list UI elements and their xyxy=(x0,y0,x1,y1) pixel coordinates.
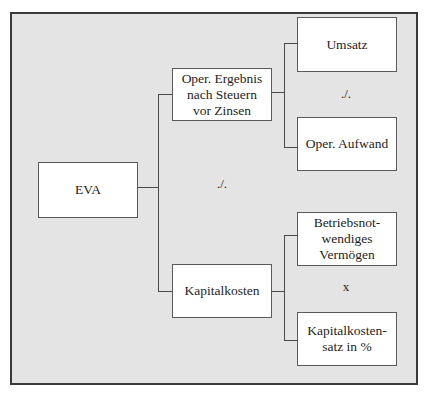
connector-to-satz xyxy=(284,340,297,341)
node-oper-aufwand: Oper. Aufwand xyxy=(297,117,397,171)
node-kapitalkostensatz-label: Kapitalkosten- satz in % xyxy=(307,323,386,355)
node-umsatz-label: Umsatz xyxy=(326,37,367,53)
node-oper-aufwand-label: Oper. Aufwand xyxy=(306,136,388,152)
connector-to-kapitalkosten xyxy=(158,291,172,292)
connector-to-ergebnis xyxy=(158,94,172,95)
node-umsatz: Umsatz xyxy=(297,17,397,72)
connector-root-vertical xyxy=(158,94,159,292)
node-kapitalkostensatz: Kapitalkosten- satz in % xyxy=(297,312,397,366)
connector-kapitalkosten-vertical xyxy=(284,235,285,341)
connector-to-aufwand xyxy=(284,147,297,148)
connector-ergebnis-vertical xyxy=(284,43,285,148)
node-kapitalkosten-label: Kapitalkosten xyxy=(185,283,260,299)
node-eva-label: EVA xyxy=(75,182,101,198)
node-kapitalkosten: Kapitalkosten xyxy=(172,264,272,318)
node-vermoegen-label: Betriebsnot- wendiges Vermögen xyxy=(314,215,381,263)
node-betriebsnotwendiges-vermoegen: Betriebsnot- wendiges Vermögen xyxy=(297,212,397,266)
node-oper-ergebnis-label: Oper. Ergebnis nach Steuern vor Zinsen xyxy=(182,71,263,119)
node-oper-ergebnis: Oper. Ergebnis nach Steuern vor Zinsen xyxy=(172,68,272,121)
connector-to-umsatz xyxy=(284,43,297,44)
connector-to-vermoegen xyxy=(284,235,297,236)
connector-root-horizontal xyxy=(138,187,159,188)
node-eva: EVA xyxy=(38,162,138,218)
operator-lower-times: x xyxy=(331,279,361,295)
operator-upper-minus: ./. xyxy=(331,86,361,102)
operator-root-minus: ./. xyxy=(207,176,237,192)
